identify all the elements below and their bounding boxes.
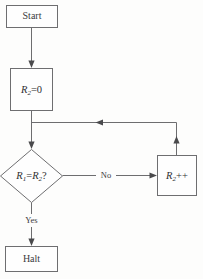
edge-decision-to-increment-arrowhead <box>150 172 158 178</box>
node-increment-operator: ++ <box>176 170 188 181</box>
edge-label-no: No <box>101 170 111 180</box>
node-decision-label: R1=R2? <box>15 170 47 183</box>
edge-decision-to-halt-arrowhead <box>28 239 34 247</box>
edge-label-yes: Yes <box>25 215 37 225</box>
node-start-label: Start <box>23 10 42 21</box>
edge-start-to-init-arrowhead <box>28 61 34 69</box>
edge-loopback-riser-arrowhead <box>173 136 179 144</box>
node-init-label: R2=0 <box>20 84 42 97</box>
node-halt-label: Halt <box>23 253 40 264</box>
edge-loopback-arrowhead <box>96 119 104 125</box>
node-decision-question-mark: ? <box>42 170 47 181</box>
node-init-operand: 0 <box>37 84 42 95</box>
node-increment-label: R2++ <box>165 170 188 183</box>
flowchart-canvas: Start R2=0 R1=R2? R2++ Halt No Yes <box>0 0 203 279</box>
flowchart-svg: Start R2=0 R1=R2? R2++ Halt No Yes <box>0 0 203 279</box>
edge-init-to-decision-arrowhead <box>28 142 34 150</box>
